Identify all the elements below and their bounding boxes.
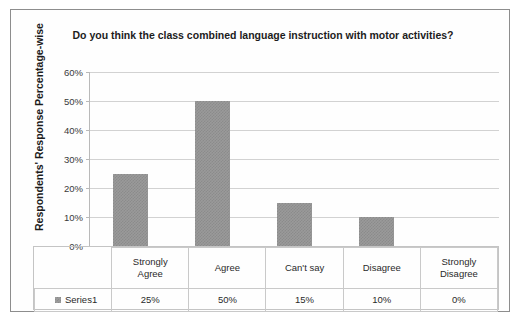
value-cell: 15%: [266, 289, 343, 312]
category-label: Strongly: [113, 256, 187, 268]
category-label: Strongly: [422, 256, 496, 268]
gridline: [89, 188, 499, 189]
category-label-row: StronglyAgreeAgreeCan't sayDisagreeStron…: [35, 248, 498, 289]
category-cell: Can't say: [266, 248, 343, 289]
y-tick-mark: [86, 130, 90, 131]
value-cell: 50%: [189, 289, 266, 312]
table-corner-cell: [35, 248, 112, 289]
y-tick-mark: [86, 159, 90, 160]
category-label: Disagree: [345, 262, 419, 274]
gridline: [89, 101, 499, 102]
y-tick-label: 60%: [64, 67, 83, 78]
category-label: Disagree: [422, 268, 496, 280]
y-axis-title: Respondents' Response Percentage-wise: [33, 31, 45, 231]
category-cell: StronglyAgree: [112, 248, 189, 289]
category-cell: StronglyDisagree: [420, 248, 497, 289]
value-cell: 0%: [420, 289, 497, 312]
legend-entry[interactable]: Series1: [35, 289, 112, 312]
chart-title: Do you think the class combined language…: [63, 28, 463, 42]
category-label: Can't say: [267, 262, 341, 274]
chart-frame: Do you think the class combined language…: [10, 9, 510, 312]
y-tick-mark: [86, 101, 90, 102]
y-tick-label: 10%: [64, 212, 83, 223]
series-color-swatch-icon: [55, 297, 61, 303]
gridline: [89, 159, 499, 160]
bar-strongly-agree: [113, 174, 148, 247]
value-cell: 25%: [112, 289, 189, 312]
bar-can-t-say: [277, 203, 312, 247]
series-value-row: Series1 25%50%15%10%0%: [35, 289, 498, 312]
bar-agree: [195, 101, 230, 246]
y-tick-label: 30%: [64, 154, 83, 165]
chart-data-table: StronglyAgreeAgreeCan't sayDisagreeStron…: [33, 246, 499, 310]
y-tick-label: 50%: [64, 96, 83, 107]
legend-label: Series1: [65, 294, 97, 305]
y-tick-mark: [86, 72, 90, 73]
category-label: Agree: [190, 262, 264, 274]
category-label: Agree: [113, 268, 187, 280]
value-cell: 10%: [343, 289, 420, 312]
category-cell: Agree: [189, 248, 266, 289]
bar-disagree: [359, 217, 394, 246]
category-cell: Disagree: [343, 248, 420, 289]
plot-area: 60%50%40%30%20%10%0%: [89, 72, 499, 246]
y-tick-label: 20%: [64, 183, 83, 194]
gridline: [89, 72, 499, 73]
y-tick-mark: [86, 188, 90, 189]
y-tick-label: 40%: [64, 125, 83, 136]
gridline: [89, 130, 499, 131]
y-tick-mark: [86, 217, 90, 218]
